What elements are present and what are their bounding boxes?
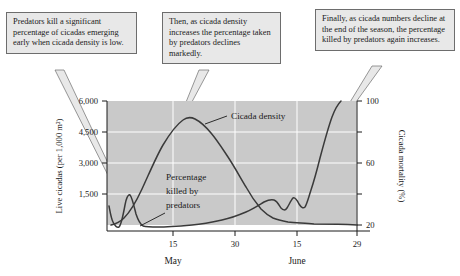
- right-tick-label-100: 100: [366, 96, 379, 106]
- x-axis: [107, 231, 370, 236]
- annotation-label-predator-line3: predators: [166, 200, 201, 210]
- cicada-chart: 6,000 4,500 3,000 1,500 100 60 20 Live c…: [0, 0, 460, 276]
- x-tick-label-4: 29: [353, 239, 362, 249]
- annotation-label-predator-line2: killed by: [166, 186, 199, 196]
- month-label-may: May: [164, 256, 181, 266]
- month-label-june: June: [288, 256, 305, 266]
- left-tick-label-3: 4,500: [79, 127, 98, 137]
- x-tick-label-1: 15: [169, 239, 178, 249]
- x-tick-label-2: 30: [231, 239, 240, 249]
- left-axis-title: Live cicadas (per 1,000 m²): [54, 118, 64, 213]
- annotation-label-predator-line1: Percentage: [166, 172, 206, 182]
- x-tick-label-3: 15: [293, 239, 302, 249]
- right-axis-title: Cicada mortality (%): [397, 130, 407, 203]
- annotation-label-cicada-density: Cicada density: [231, 111, 286, 121]
- left-tick-label-4: 6,000: [79, 96, 98, 106]
- left-tick-label-2: 3,000: [79, 158, 98, 168]
- right-tick-label-20: 20: [366, 220, 375, 230]
- figure-root: Predators kill a significant percentage …: [0, 0, 460, 276]
- left-tick-label-1: 1,500: [79, 189, 98, 199]
- right-tick-label-60: 60: [366, 158, 375, 168]
- right-axis: [357, 101, 362, 231]
